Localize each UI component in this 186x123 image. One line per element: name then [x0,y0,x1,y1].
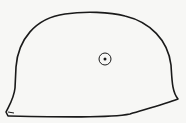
helmet-illustration [0,0,186,123]
helmet-outline [6,12,178,117]
helmet-drawing [0,0,186,123]
ventilation-hole-dot [104,58,107,61]
helmet-rim-edge [8,112,14,113]
